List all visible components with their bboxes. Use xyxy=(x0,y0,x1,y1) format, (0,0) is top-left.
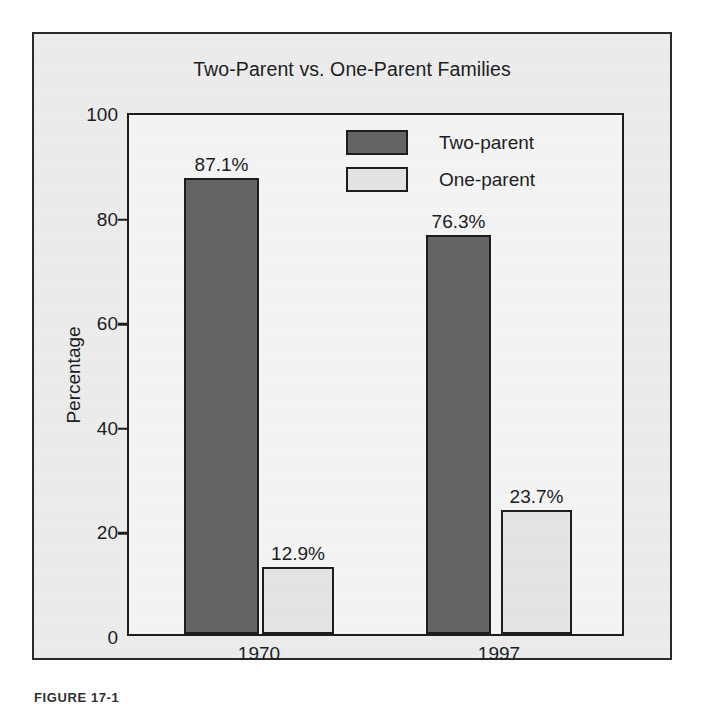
bar-1997-two-parent: 76.3% xyxy=(426,235,491,634)
bar-value-label: 12.9% xyxy=(271,543,325,565)
bar-value-label: 23.7% xyxy=(510,486,564,508)
bar-value-label: 76.3% xyxy=(432,211,486,233)
legend-label: One-parent xyxy=(439,169,535,191)
x-category-label: 1997 xyxy=(478,643,520,665)
y-tick-label: 60 xyxy=(97,313,118,335)
y-tick-label: 80 xyxy=(97,209,118,231)
y-tick-mark xyxy=(118,218,129,221)
legend-item-two-parent: Two-parent xyxy=(346,127,535,158)
bar-1997-one-parent: 23.7% xyxy=(501,510,572,634)
y-axis-title: Percentage xyxy=(61,113,87,636)
figure-caption: FIGURE 17-1 xyxy=(34,690,119,712)
bar-1970-two-parent: 87.1% xyxy=(184,178,259,634)
y-tick-mark xyxy=(118,428,129,431)
chart-legend: Two-parentOne-parent xyxy=(346,127,535,201)
x-category-label: 1970 xyxy=(238,643,280,665)
y-tick-label: 20 xyxy=(97,522,118,544)
y-tick-label: 40 xyxy=(97,418,118,440)
y-tick-mark xyxy=(118,532,129,535)
y-tick-label: 0 xyxy=(107,627,118,649)
legend-item-one-parent: One-parent xyxy=(346,164,535,195)
plot-area: 020406080100 87.1%12.9%76.3%23.7% 197019… xyxy=(127,113,624,636)
y-tick-label: 100 xyxy=(86,104,118,126)
bar-value-label: 87.1% xyxy=(195,154,249,176)
figure-panel: Two-Parent vs. One-Parent Families Perce… xyxy=(32,32,672,660)
legend-swatch xyxy=(346,130,408,155)
chart-title: Two-Parent vs. One-Parent Families xyxy=(34,58,670,81)
legend-label: Two-parent xyxy=(439,132,534,154)
bar-1970-one-parent: 12.9% xyxy=(262,567,334,634)
legend-swatch xyxy=(346,167,408,192)
y-tick-mark xyxy=(118,323,129,326)
y-axis-title-label: Percentage xyxy=(63,326,85,423)
